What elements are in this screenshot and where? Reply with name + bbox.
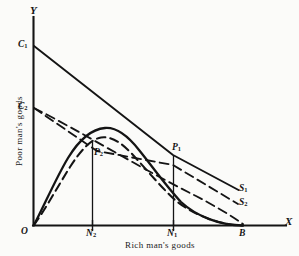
s1-subscript: 1 xyxy=(244,186,247,193)
c2-s2-price-line xyxy=(34,108,238,204)
c1-s1-price-line xyxy=(34,46,239,190)
axis-lines xyxy=(33,17,286,226)
y-axis-label: Y xyxy=(30,5,37,16)
s2-subscript: 2 xyxy=(244,200,247,207)
x-axis-label: X xyxy=(285,216,292,227)
p1-subscript: 1 xyxy=(178,145,181,152)
n2-letter: N xyxy=(86,228,93,238)
n1-tick-label: N1 xyxy=(167,229,177,239)
origin-label: O xyxy=(21,227,28,237)
economics-transformation-curve-figure: Y X O C1 C2 P1 P2 N2 N1 B S1 S2 Poor man… xyxy=(0,0,299,256)
s1-curve-label: S1 xyxy=(239,184,248,194)
p1-letter: P xyxy=(172,142,178,152)
b-letter: B xyxy=(239,228,245,238)
x-axis-title: Rich man's goods xyxy=(125,240,195,250)
p2-point-label: P2 xyxy=(94,148,103,158)
c1-intercept-label: C1 xyxy=(18,40,28,50)
s2-curve-label: S2 xyxy=(239,198,248,208)
p2-subscript: 2 xyxy=(100,150,103,157)
c2-lower-dashed-chord xyxy=(34,108,243,224)
n1-subscript: 1 xyxy=(174,231,177,238)
n1-letter: N xyxy=(167,228,174,238)
n2-tick-label: N2 xyxy=(86,229,96,239)
p1-point-label: P1 xyxy=(172,143,181,153)
c1-subscript: 1 xyxy=(24,42,27,49)
n2-subscript: 2 xyxy=(93,231,96,238)
figure-canvas xyxy=(0,0,299,256)
p2-letter: P xyxy=(94,147,100,157)
c2-subscript: 2 xyxy=(24,104,27,111)
b-tick-label: B xyxy=(239,229,245,239)
y-axis-title: Poor man's goods xyxy=(14,96,24,166)
